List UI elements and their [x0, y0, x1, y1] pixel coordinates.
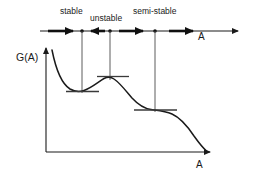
- free-energy-diagram: stable unstable semi-stable A A G(A): [0, 0, 255, 179]
- label-stable: stable: [60, 7, 83, 16]
- plot-axes-group: [46, 48, 210, 152]
- diagram-canvas: [0, 0, 255, 179]
- free-energy-curve: [52, 50, 207, 152]
- tangent-marks-group: [66, 77, 177, 111]
- label-semi-stable: semi-stable: [133, 7, 176, 16]
- curve-path: [52, 50, 207, 152]
- stability-axis-group: [40, 29, 238, 33]
- label-top-axis-A: A: [198, 32, 205, 41]
- label-unstable: unstable: [90, 14, 122, 23]
- label-bottom-axis-A: A: [196, 160, 203, 169]
- drop-lines-group: [82, 31, 155, 112]
- label-y-axis-GA: G(A): [16, 53, 38, 62]
